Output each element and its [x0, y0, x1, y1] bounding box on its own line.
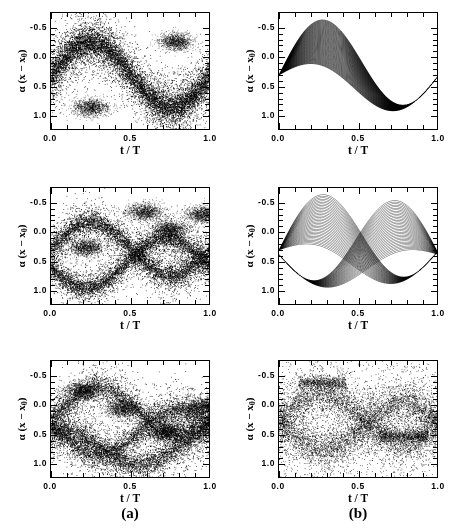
x-tick-minor	[295, 361, 296, 365]
x-tick-minor	[407, 361, 408, 365]
y-tick-minor	[51, 256, 55, 257]
y-tick-minor	[433, 99, 437, 100]
y-tick-minor	[205, 274, 209, 275]
y-tick-minor	[51, 93, 55, 94]
x-tick-minor	[295, 13, 296, 17]
y-tick-minor	[205, 452, 209, 453]
x-tick-minor	[83, 188, 84, 192]
y-tick-minor	[51, 452, 55, 453]
y-tick-minor	[279, 220, 283, 221]
y-tick-major	[51, 262, 57, 263]
column-label-a: (a)	[121, 505, 139, 522]
y-tick-major	[279, 405, 285, 406]
y-tick-major	[51, 116, 57, 117]
y-tick-major	[431, 57, 437, 58]
x-tick-minor	[391, 473, 392, 477]
x-tick-label: 0.0	[43, 308, 57, 318]
figure-root: -0.50.00.51.00.00.51.0t / Tα (x − x0)-0.…	[0, 0, 453, 531]
y-tick-major	[51, 57, 57, 58]
x-tick-major	[51, 471, 52, 477]
y-tick-label: 0.0	[33, 399, 47, 409]
x-tick-label: 1.0	[431, 308, 445, 318]
x-tick-minor	[375, 361, 376, 365]
y-tick-minor	[279, 244, 283, 245]
x-tick-minor	[67, 125, 68, 129]
plot-frame-a1	[50, 12, 210, 130]
plot-data-area-a3	[51, 361, 210, 478]
y-tick-minor	[205, 429, 209, 430]
plot-frame-a3	[50, 360, 210, 478]
x-tick-major	[359, 188, 360, 194]
x-tick-minor	[343, 125, 344, 129]
x-tick-minor	[195, 300, 196, 304]
y-tick-major	[203, 87, 209, 88]
x-tick-major	[131, 123, 132, 129]
y-tick-minor	[51, 238, 55, 239]
x-tick-minor	[147, 125, 148, 129]
y-tick-major	[431, 291, 437, 292]
x-tick-minor	[115, 125, 116, 129]
x-tick-minor	[179, 300, 180, 304]
x-tick-minor	[179, 473, 180, 477]
y-tick-minor	[433, 244, 437, 245]
x-tick-minor	[423, 188, 424, 192]
x-tick-minor	[375, 13, 376, 17]
x-tick-label: 0.5	[351, 308, 365, 318]
x-tick-minor	[407, 188, 408, 192]
y-tick-minor	[51, 279, 55, 280]
plot-frame-b3	[278, 360, 438, 478]
y-tick-major	[431, 203, 437, 204]
y-tick-minor	[51, 81, 55, 82]
y-tick-minor	[205, 447, 209, 448]
x-tick-major	[359, 361, 360, 367]
y-tick-minor	[51, 411, 55, 412]
y-tick-minor	[51, 274, 55, 275]
y-tick-minor	[433, 382, 437, 383]
y-tick-minor	[433, 209, 437, 210]
x-tick-minor	[115, 300, 116, 304]
y-tick-minor	[205, 256, 209, 257]
y-tick-minor	[51, 209, 55, 210]
y-tick-minor	[205, 45, 209, 46]
y-tick-minor	[279, 93, 283, 94]
y-tick-label: 1.0	[33, 285, 47, 295]
x-tick-minor	[295, 125, 296, 129]
y-tick-minor	[279, 411, 283, 412]
y-tick-minor	[51, 34, 55, 35]
y-tick-minor	[279, 99, 283, 100]
y-tick-minor	[205, 226, 209, 227]
y-tick-major	[431, 435, 437, 436]
y-tick-minor	[51, 99, 55, 100]
y-tick-minor	[279, 279, 283, 280]
y-tick-minor	[433, 110, 437, 111]
x-tick-minor	[99, 473, 100, 477]
y-tick-minor	[205, 51, 209, 52]
y-tick-major	[203, 262, 209, 263]
x-tick-major	[131, 471, 132, 477]
x-tick-label: 0.5	[351, 133, 365, 143]
x-tick-minor	[179, 125, 180, 129]
x-tick-minor	[179, 13, 180, 17]
y-tick-major	[431, 405, 437, 406]
y-tick-label: 0.0	[261, 226, 275, 236]
x-tick-major	[51, 188, 52, 194]
y-tick-minor	[205, 93, 209, 94]
y-tick-minor	[205, 69, 209, 70]
y-tick-minor	[205, 458, 209, 459]
y-tick-minor	[51, 51, 55, 52]
y-tick-minor	[51, 104, 55, 105]
x-tick-minor	[327, 300, 328, 304]
y-tick-major	[51, 435, 57, 436]
y-tick-label: 0.5	[33, 81, 47, 91]
y-tick-minor	[51, 268, 55, 269]
y-tick-label: 0.5	[33, 256, 47, 266]
plot-frame-b1	[278, 12, 438, 130]
x-tick-minor	[391, 188, 392, 192]
x-tick-label: 0.5	[351, 481, 365, 491]
x-tick-minor	[375, 473, 376, 477]
x-tick-label: 0.5	[123, 308, 137, 318]
y-tick-major	[51, 232, 57, 233]
x-tick-major	[131, 13, 132, 19]
y-tick-major	[203, 203, 209, 204]
y-tick-major	[431, 87, 437, 88]
